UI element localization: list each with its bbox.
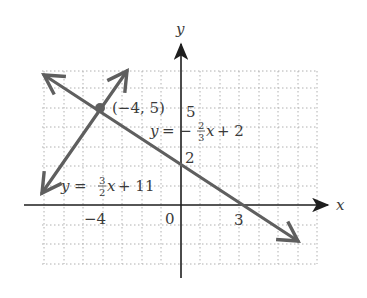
equation-label-line1: y = − 2 3 x + 2 xyxy=(149,120,244,143)
svg-text:3: 3 xyxy=(198,132,204,143)
svg-text:x: x xyxy=(107,177,116,195)
coordinate-plane: y x −4 0 3 5 2 (−4, 5) y = − 2 3 x + 2 y… xyxy=(0,0,367,298)
svg-text:2: 2 xyxy=(99,187,105,198)
svg-text:x: x xyxy=(206,122,215,140)
svg-text:= −: = − xyxy=(162,122,192,140)
tick-x-0: 0 xyxy=(165,210,175,228)
svg-text:y: y xyxy=(149,122,159,140)
tick-x-3: 3 xyxy=(234,211,244,229)
line-y-3-2x-plus11 xyxy=(42,71,127,193)
svg-text:3: 3 xyxy=(99,175,105,186)
svg-text:+ 11: + 11 xyxy=(118,177,154,195)
point-label: (−4, 5) xyxy=(112,99,165,117)
x-axis-label: x xyxy=(336,196,345,214)
tick-x-neg4: −4 xyxy=(84,210,106,228)
svg-text:=: = xyxy=(74,177,87,195)
tick-y-2: 2 xyxy=(185,149,195,167)
tick-y-5: 5 xyxy=(186,103,196,121)
svg-text:+ 2: + 2 xyxy=(217,122,244,140)
svg-text:2: 2 xyxy=(198,120,204,131)
y-axis-label: y xyxy=(175,20,185,38)
intersection-point xyxy=(95,103,105,113)
svg-text:y: y xyxy=(60,177,70,195)
equation-label-line2: y = 3 2 x + 11 xyxy=(60,175,154,198)
